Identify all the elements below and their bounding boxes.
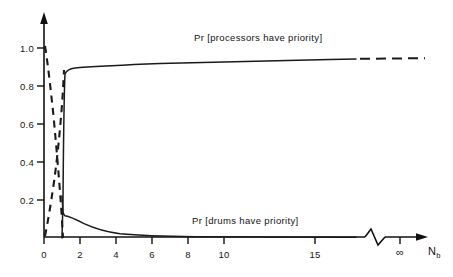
curve-processors-dashed-tail xyxy=(360,58,425,59)
x-axis-title-subscript: b xyxy=(436,251,440,260)
curve-label-processors: Pr [processors have priority] xyxy=(194,32,322,43)
x-tick-label-10: 10 xyxy=(218,249,229,260)
x-tick-label-6: 6 xyxy=(149,249,155,260)
y-tick-label-3: 0.6 xyxy=(8,119,34,130)
x-axis-title-main: N xyxy=(428,245,436,257)
y-tick-label-4: 0.4 xyxy=(8,157,34,168)
chart-container: 1.0 0.8 0.6 0.4 0.2 0 2 4 6 8 10 15 ∞ Nb… xyxy=(0,0,453,277)
x-axis-title: Nb xyxy=(428,245,440,257)
curve-transition-descending xyxy=(45,46,63,238)
x-tick-label-8: 8 xyxy=(185,249,191,260)
x-tick-label-4: 4 xyxy=(113,249,119,260)
x-tick-label-15: 15 xyxy=(309,249,320,260)
x-axis-ticks xyxy=(44,237,400,244)
curve-label-drums: Pr [drums have priority] xyxy=(192,215,299,226)
x-tick-label-0: 0 xyxy=(41,249,47,260)
x-axis-break-zigzag xyxy=(365,229,385,245)
y-tick-label-2: 0.8 xyxy=(8,81,34,92)
curve-processors-have-priority xyxy=(62,59,356,238)
y-tick-label-5: 0.2 xyxy=(8,195,34,206)
x-tick-label-2: 2 xyxy=(77,249,83,260)
x-tick-label-infinity: ∞ xyxy=(396,246,404,258)
y-axis-ticks xyxy=(37,48,44,200)
y-tick-label-1: 1.0 xyxy=(8,43,34,54)
